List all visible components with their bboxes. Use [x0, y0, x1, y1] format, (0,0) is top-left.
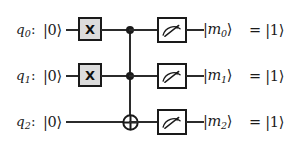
initial-state-q2: |0⟩: [43, 114, 62, 130]
wire-segment-q0-pre-measure: [129, 29, 159, 31]
meter-icon: [159, 65, 185, 87]
result-value-q0: = |1⟩: [249, 22, 284, 38]
circuit-row-q0: q0: |0⟩ X |m0⟩ = |1⟩: [0, 7, 301, 53]
circuit-row-q1: q1: |0⟩ X |m1⟩ = |1⟩: [0, 53, 301, 99]
output-ket-q1: |m1⟩: [203, 67, 232, 84]
x-gate-q1[interactable]: X: [78, 63, 102, 87]
output-ket-q0: |m0⟩: [203, 21, 232, 38]
qubit-label-q0: q0:: [16, 21, 36, 38]
wire-segment-q0-out: [186, 29, 204, 31]
meter-icon: [159, 19, 185, 41]
wire-segment-q1-out: [186, 75, 204, 77]
wire-segment-q2-pre-measure: [129, 121, 159, 123]
wire-segment-q2-out: [186, 121, 204, 123]
measurement-gate-q1[interactable]: [157, 63, 187, 89]
wire-segment-q1-pre-measure: [129, 75, 159, 77]
measurement-gate-q0[interactable]: [157, 17, 187, 43]
initial-state-q0: |0⟩: [43, 22, 62, 38]
meter-icon: [159, 111, 185, 133]
qubit-label-q2: q2:: [16, 113, 36, 130]
circuit-row-q2: q2: |0⟩ |m2⟩ = |1⟩: [0, 99, 301, 143]
result-value-q1: = |1⟩: [249, 68, 284, 84]
measurement-gate-q2[interactable]: [157, 109, 187, 135]
result-value-q2: = |1⟩: [249, 114, 284, 130]
x-gate-q0[interactable]: X: [78, 17, 102, 41]
initial-state-q1: |0⟩: [43, 68, 62, 84]
quantum-circuit-diagram: q0: |0⟩ X |m0⟩ = |1⟩ q1: |0⟩ X: [0, 0, 301, 143]
output-ket-q2: |m2⟩: [203, 113, 232, 130]
qubit-label-q1: q1:: [16, 67, 36, 84]
